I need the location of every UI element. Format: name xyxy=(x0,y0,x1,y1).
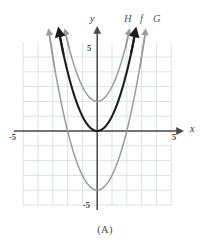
figure-container: y x -5 5 5 -5 H f G (A) xyxy=(0,0,210,247)
y-tick-label-neg5: -5 xyxy=(83,201,90,210)
curve-H-arrow-left xyxy=(65,31,69,48)
x-axis-label: x xyxy=(190,124,194,134)
curve-f-arrow-right xyxy=(131,31,136,55)
x-tick-label-pos5: 5 xyxy=(172,133,176,142)
axis-lines xyxy=(14,29,181,210)
figure-caption: (A) xyxy=(0,224,210,235)
curve-label-f: f xyxy=(140,14,143,25)
y-tick-label-pos5: 5 xyxy=(87,44,91,53)
y-axis-label: y xyxy=(90,14,94,24)
curve-G-arrow-right xyxy=(140,31,146,68)
curve-H-arrow-right xyxy=(125,31,129,48)
curve-label-G: G xyxy=(153,14,161,25)
parabola-plot xyxy=(0,0,210,247)
curve-G-arrow-left xyxy=(49,31,55,68)
curve-label-H: H xyxy=(124,14,132,25)
x-tick-label-neg5: -5 xyxy=(9,133,16,142)
curve-f-arrow-left xyxy=(59,31,64,55)
